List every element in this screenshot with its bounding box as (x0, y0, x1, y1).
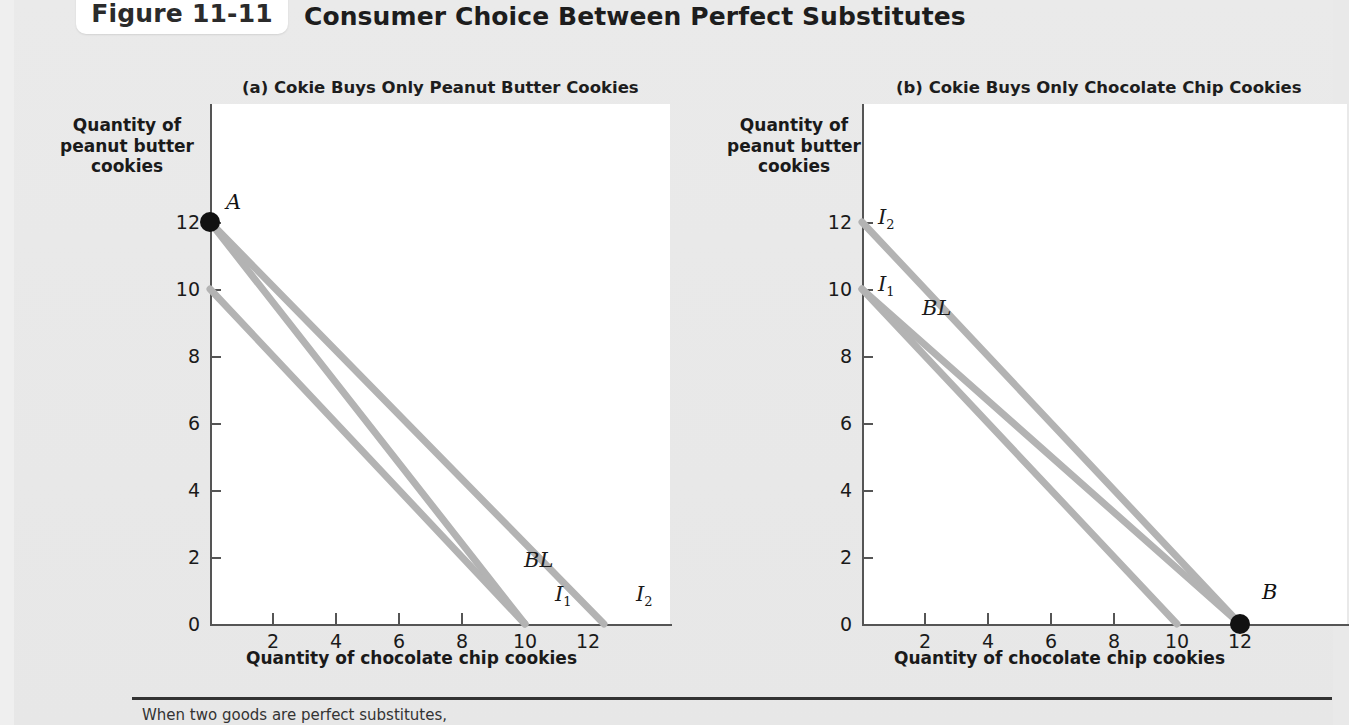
panel-b-point-b-label: B (1262, 580, 1277, 604)
panel-a-label-i1: I1 (555, 582, 572, 609)
panel-a-point-a-marker (200, 212, 220, 232)
panel-b-indifference-curve-2 (862, 222, 1240, 624)
panel-a-x-axis-label: Quantity of chocolate chip cookies (246, 648, 577, 668)
panel-b-x-axis-label: Quantity of chocolate chip cookies (894, 648, 1225, 668)
panel-a-curves (14, 0, 694, 725)
panel-a-label-i2: I2 (636, 582, 653, 609)
panel-a-label-bl: BL (524, 548, 553, 572)
page-margin-stripe (0, 0, 15, 725)
panel-a-point-a-label: A (226, 190, 241, 214)
panel-b-label-bl: BL (922, 296, 951, 320)
panel-b-budget-line (862, 289, 1240, 624)
figure-page: Figure 11-11 Consumer Choice Between Per… (14, 0, 1333, 725)
caption-divider (132, 697, 1332, 700)
panel-a-budget-line (210, 289, 525, 624)
panel-a-indifference-curve-1 (210, 222, 525, 624)
panel-b-indifference-curve-1 (862, 289, 1177, 624)
panel-b-label-i2: I2 (878, 205, 895, 232)
panel-b-curves (694, 0, 1347, 725)
panel-b-label-i1: I1 (878, 272, 895, 299)
panel-b-point-b-marker (1230, 614, 1250, 634)
figure-caption: When two goods are perfect substitutes, (142, 706, 447, 725)
